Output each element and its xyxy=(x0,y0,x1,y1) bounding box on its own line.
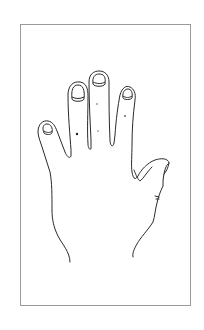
mark-dot xyxy=(124,115,126,117)
illustration-frame xyxy=(21,25,191,306)
little-finger-nail-icon xyxy=(43,124,52,135)
hand-illustration xyxy=(0,0,204,330)
hand-outline-icon xyxy=(38,71,169,262)
index-finger-nail-icon xyxy=(123,89,132,100)
mark-dot xyxy=(76,133,78,135)
middle-finger-nail-icon xyxy=(93,74,105,86)
mark-dot xyxy=(96,103,98,105)
mark-dot xyxy=(97,130,98,131)
ring-finger-nail-icon xyxy=(72,85,85,101)
